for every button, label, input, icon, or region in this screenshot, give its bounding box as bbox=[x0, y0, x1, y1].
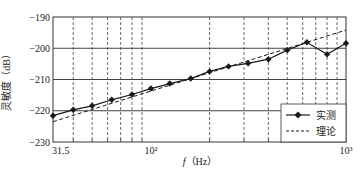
y-tick-label: −210 bbox=[29, 74, 50, 85]
horizontal-gridlines bbox=[53, 48, 346, 111]
diamond-marker-icon bbox=[89, 103, 95, 109]
diamond-marker-icon bbox=[70, 107, 76, 113]
y-axis-label: 灵敏度（dB） bbox=[0, 49, 12, 111]
legend-box bbox=[281, 104, 346, 142]
diamond-marker-icon bbox=[225, 63, 231, 69]
diamond-marker-icon bbox=[50, 113, 56, 119]
chart: −190−200−210−220−230 31.510²10³ 灵敏度（dB） … bbox=[0, 0, 362, 173]
diamond-marker-icon bbox=[304, 39, 310, 45]
y-tick-label: −200 bbox=[29, 43, 50, 54]
x-axis-label: f（Hz） bbox=[183, 156, 217, 167]
x-tick-label: 10³ bbox=[340, 145, 353, 156]
y-tick-label: −220 bbox=[29, 105, 50, 116]
x-tick-label: 10² bbox=[144, 145, 157, 156]
diamond-marker-icon bbox=[109, 97, 115, 103]
diamond-marker-icon bbox=[188, 75, 194, 81]
legend-theory-label: 理论 bbox=[316, 125, 336, 137]
diamond-marker-icon bbox=[206, 68, 212, 74]
legend-measured-label: 实测 bbox=[316, 109, 336, 121]
y-tick-label: −190 bbox=[29, 12, 50, 23]
x-tick-label: 31.5 bbox=[52, 145, 70, 156]
diamond-marker-icon bbox=[343, 40, 349, 46]
diamond-marker-icon bbox=[265, 56, 271, 62]
diamond-marker-icon bbox=[324, 51, 330, 57]
x-axis-label-unit: （Hz） bbox=[186, 156, 218, 167]
y-tick-label: −230 bbox=[29, 137, 50, 148]
x-axis-tick-labels: 31.510²10³ bbox=[52, 145, 353, 156]
legend: 实测 理论 bbox=[281, 104, 346, 142]
y-axis-tick-labels: −190−200−210−220−230 bbox=[29, 12, 50, 148]
